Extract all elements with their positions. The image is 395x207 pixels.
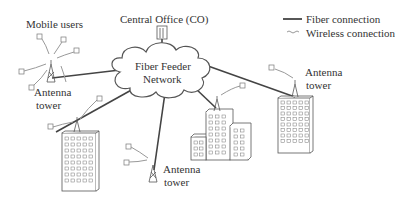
tower-bottom-label-line2: tower (164, 176, 189, 188)
tower-left-label-line2: tower (36, 99, 61, 111)
antenna-tower-icon-right (292, 80, 298, 97)
legend-graphics (283, 19, 302, 33)
tower-left-label-line1: Antenna (34, 86, 71, 98)
mobile-users-building-center (240, 83, 245, 88)
network-label-line1: Fiber Feeder (135, 60, 191, 72)
tower-right-label-line2: tower (306, 79, 331, 91)
central-office-label: Central Office (CO) (120, 13, 208, 25)
building-right-icon (278, 96, 313, 153)
antenna-tower-icon-bottom (149, 165, 157, 182)
antenna-tower-icon-left (47, 60, 55, 82)
wireless-links-left (24, 39, 74, 85)
tower-bottom-label-line1: Antenna (163, 163, 200, 175)
wireless-links-building-center (221, 86, 240, 95)
central-office-building-icon (157, 26, 167, 39)
network-label-line2: Network (143, 73, 182, 85)
wireless-links-bottom (129, 147, 148, 162)
legend-fiber-label: Fiber connection (306, 13, 380, 25)
tower-right-label-line1: Antenna (305, 66, 342, 78)
building-cluster-icon (191, 109, 251, 160)
mobile-users-right (269, 65, 274, 70)
legend-wireless-label: Wireless connection (306, 27, 395, 39)
wireless-links-right (275, 69, 293, 78)
mobile-users-label: Mobile users (26, 18, 83, 30)
